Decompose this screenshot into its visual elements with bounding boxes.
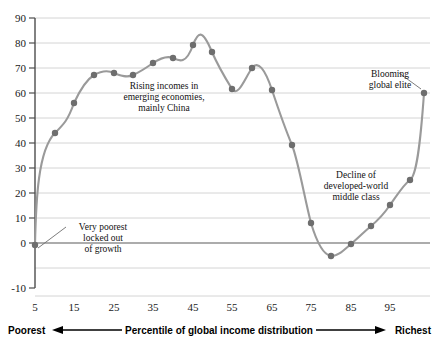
annotation-decline-middle-class: Decline of developed-world middle class: [324, 170, 389, 202]
y-tick-label-10: 10: [15, 212, 27, 224]
data-point: [71, 100, 77, 106]
x-tick-label-15: 15: [69, 301, 81, 313]
y-tick-label-50: 50: [15, 112, 27, 124]
annotation-rising-incomes: Rising incomes in emerging economies, ma…: [123, 81, 204, 113]
data-point: [190, 42, 196, 48]
data-point: [368, 223, 374, 229]
y-tick-label-90: 90: [15, 12, 27, 24]
data-point: [308, 220, 314, 226]
annotation-blooming-global-elite: Blooming global elite: [369, 69, 421, 90]
y-tick-label-80: 80: [15, 37, 27, 49]
arrow-right: [316, 326, 386, 334]
caption-poorest: Poorest: [8, 325, 46, 336]
y-tick-label-30: 30: [15, 162, 27, 174]
data-point: [249, 65, 255, 71]
arrow-left-head: [52, 326, 63, 334]
x-tick-label-5: 5: [32, 301, 38, 313]
annotation-rising-incomes-line1: Rising incomes in: [130, 81, 199, 91]
caption-richest: Richest: [395, 325, 432, 336]
annotation-rising-incomes-line2: emerging economies,: [123, 92, 204, 102]
annotation-rising-incomes-line3: mainly China: [138, 103, 190, 113]
y-tick-label-0: 0: [21, 237, 27, 249]
x-tick-label-45: 45: [188, 301, 200, 313]
arrow-right-head: [375, 326, 386, 334]
x-tick-label-95: 95: [385, 301, 397, 313]
data-point: [269, 87, 275, 93]
chart-canvas: 90 80 70 60 50 40 30 20 10 0 -10 5 15 25…: [0, 0, 438, 343]
data-point: [421, 90, 427, 96]
data-point: [387, 202, 393, 208]
data-point: [170, 55, 176, 61]
x-tick-label-25: 25: [109, 301, 121, 313]
data-point: [229, 86, 235, 92]
annotation-very-poorest-line1: Very poorest: [79, 222, 128, 232]
data-point: [407, 177, 413, 183]
x-tick-label-85: 85: [346, 301, 358, 313]
data-point: [150, 60, 156, 66]
data-point: [91, 72, 97, 78]
data-point: [348, 241, 354, 247]
x-axis: 5 15 25 35 45 55 65 75 85 95: [32, 296, 430, 313]
annotation-decline-line3: middle class: [332, 192, 380, 202]
annotation-blooming-line2: global elite: [369, 80, 411, 90]
data-point: [130, 72, 136, 78]
y-tick-label-70: 70: [15, 62, 27, 74]
data-point: [289, 142, 295, 148]
annotation-blooming-line1: Blooming: [371, 69, 409, 79]
y-axis: 90 80 70 60 50 40 30 20 10 0 -10: [11, 12, 35, 294]
x-tick-label-35: 35: [148, 301, 160, 313]
data-point: [209, 49, 215, 55]
y-tick-label-minus10: -10: [11, 282, 26, 294]
data-point: [52, 130, 58, 136]
x-tick-label-65: 65: [267, 301, 279, 313]
annotation-decline-line2: developed-world: [324, 181, 389, 191]
x-tick-label-75: 75: [306, 301, 318, 313]
y-tick-label-40: 40: [15, 137, 27, 149]
annotation-very-poorest-line2: locked out: [83, 233, 123, 243]
annotation-decline-line1: Decline of: [336, 170, 377, 180]
data-point: [328, 253, 334, 259]
y-tick-label-60: 60: [15, 87, 27, 99]
annotation-very-poorest: Very poorest locked out of growth: [38, 222, 127, 254]
elephant-curve-chart: 90 80 70 60 50 40 30 20 10 0 -10 5 15 25…: [0, 0, 438, 343]
data-point: [111, 70, 117, 76]
axis-caption-row: Poorest Percentile of global income dist…: [8, 325, 432, 336]
arrow-left: [52, 326, 122, 334]
leader-line-very-poorest: [38, 227, 66, 248]
data-point: [32, 242, 38, 248]
annotation-very-poorest-line3: of growth: [84, 244, 121, 254]
y-tick-label-20: 20: [15, 187, 27, 199]
x-tick-label-55: 55: [227, 301, 239, 313]
caption-x-axis-title: Percentile of global income distribution: [125, 325, 313, 336]
